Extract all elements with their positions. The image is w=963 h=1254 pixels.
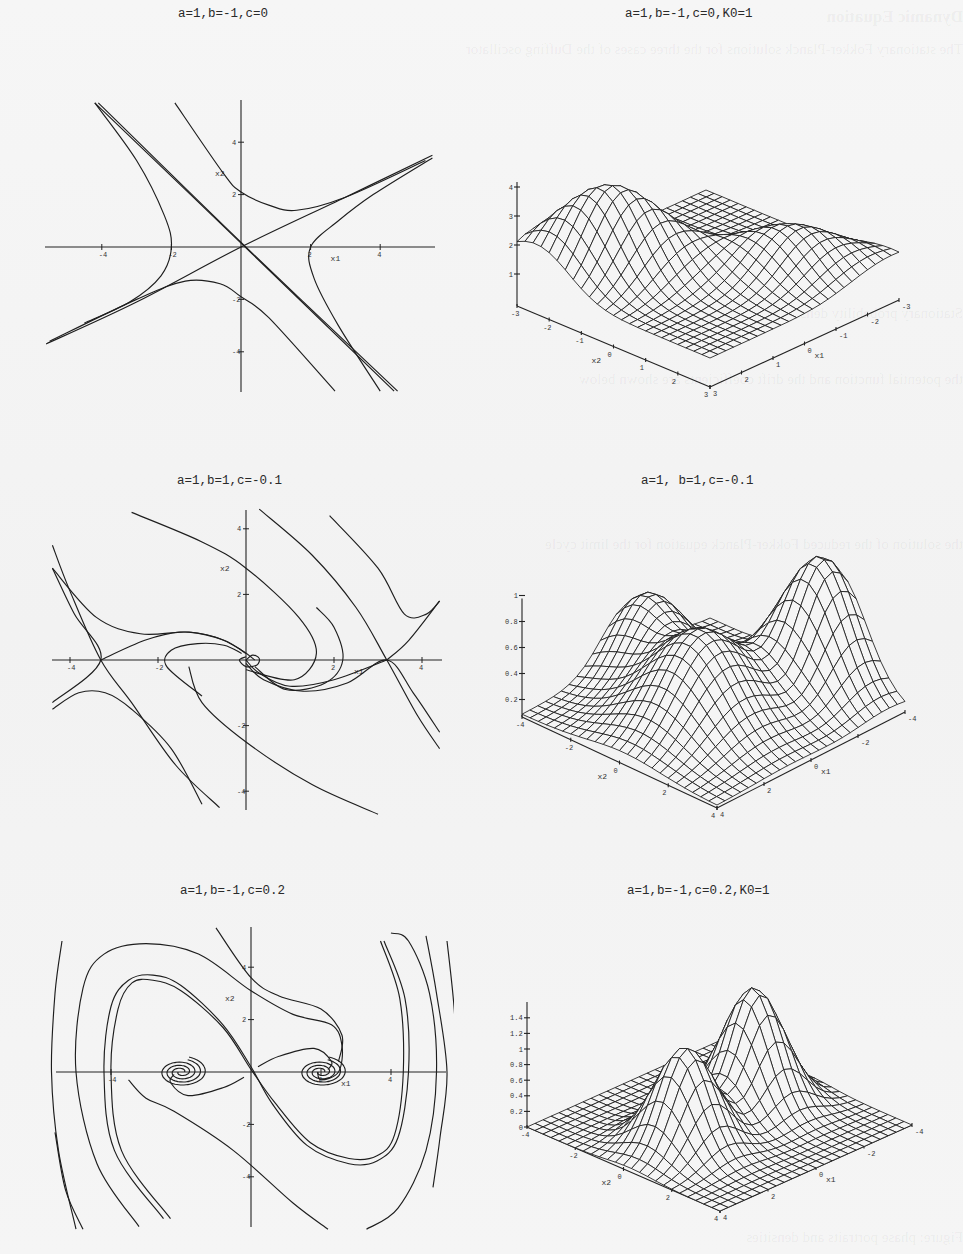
z-tick-label: 0.2 (510, 1108, 523, 1116)
x1-tick-label: 2 (771, 1193, 775, 1201)
x2-tick-label: -2 (569, 1152, 577, 1160)
x2-tick-label: 4 (714, 1215, 718, 1223)
x1-tick-label: 0 (819, 1171, 823, 1179)
x1-tick-label: -4 (915, 1128, 923, 1136)
z-tick-label: 1.4 (510, 1014, 523, 1022)
density-surface-3: 00.20.40.60.811.21.4-4-2024-4-2024x2x1 (0, 0, 963, 1254)
wireframe-mesh (527, 988, 912, 1211)
x1-tick-label: -2 (867, 1150, 875, 1158)
x1-axis-label: x1 (826, 1175, 836, 1184)
scanned-page: Dynamic EquationThe stationary Fokker-Pl… (0, 0, 963, 1254)
x2-axis-label: x2 (602, 1178, 612, 1187)
x1-tick-label: 4 (723, 1214, 727, 1222)
x2-tick-label: -4 (521, 1131, 529, 1139)
z-tick-label: 1 (519, 1046, 523, 1054)
z-tick-label: 0.6 (510, 1077, 523, 1085)
x2-tick-label: 2 (666, 1194, 670, 1202)
z-tick-label: 0.8 (510, 1061, 523, 1069)
z-tick-label: 0.4 (510, 1092, 523, 1100)
z-tick-label: 1.2 (510, 1030, 523, 1038)
x2-tick-label: 0 (618, 1173, 622, 1181)
